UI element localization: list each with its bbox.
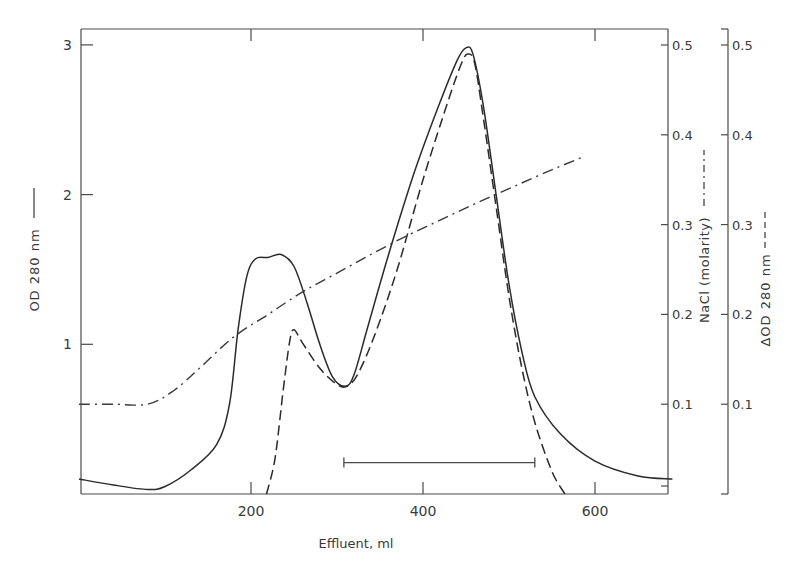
x-tick-label: 600 xyxy=(582,503,609,519)
y-right1-tick-label: 0.3 xyxy=(672,218,693,233)
y-right1-tick-label: 0.1 xyxy=(672,397,693,412)
axis-ticks xyxy=(81,29,728,494)
plot-frame xyxy=(81,29,728,494)
y-left-title: OD 280 nm xyxy=(27,228,42,311)
pooled-fraction-bar xyxy=(344,458,535,468)
od280-solid-line xyxy=(79,47,672,490)
y-right2-tick-label: 0.5 xyxy=(732,38,753,53)
y-right2-tick-label: 0.1 xyxy=(732,397,753,412)
y-right1-tick-label: 0.4 xyxy=(672,128,693,143)
y-right1-tick-label: 0.2 xyxy=(672,307,693,322)
delta-od280-dashed-line xyxy=(267,54,565,494)
tick-labels: 2004006001230.10.20.30.40.50.10.20.30.40… xyxy=(63,37,753,519)
y-left-title-group: OD 280 nm xyxy=(27,188,42,312)
y-left-tick-label: 3 xyxy=(63,37,72,53)
y-right2-title-group: ΔOD 280 nm xyxy=(758,210,773,347)
y-right1-tick-label: 0.5 xyxy=(672,38,693,53)
y-right1-title: NaCl (molarity) xyxy=(697,217,712,323)
x-tick-label: 200 xyxy=(238,503,265,519)
chromatography-chart: 2004006001230.10.20.30.40.50.10.20.30.40… xyxy=(0,0,807,574)
y-right2-tick-label: 0.4 xyxy=(732,128,753,143)
y-right2-tick-label: 0.2 xyxy=(732,307,753,322)
y-right2-title: ΔOD 280 nm xyxy=(758,253,773,346)
y-left-tick-label: 2 xyxy=(63,187,72,203)
y-left-tick-label: 1 xyxy=(63,336,72,352)
series-lines xyxy=(79,47,672,494)
y-right1-title-group: NaCl (molarity) xyxy=(697,150,712,323)
x-tick-label: 400 xyxy=(410,503,437,519)
x-axis-title: Effluent, ml xyxy=(319,536,394,551)
y-right2-tick-label: 0.3 xyxy=(732,218,753,233)
nacl-dashdot-line xyxy=(79,157,582,405)
